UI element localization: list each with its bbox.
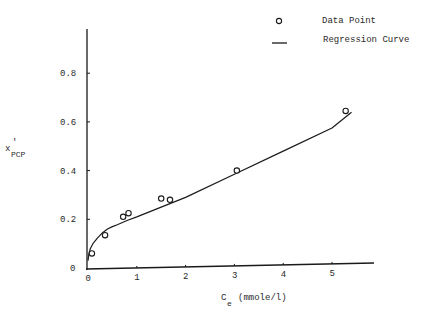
x-axis-label: C e (mmole/l) xyxy=(221,293,287,308)
x-tick-label: 3 xyxy=(232,271,237,281)
y-tick-label: 0.6 xyxy=(60,118,76,128)
regression-line xyxy=(88,112,352,261)
y-tick-label: 0 xyxy=(70,264,75,274)
x-tick-label: 0 xyxy=(86,274,91,284)
data-point xyxy=(167,197,172,202)
data-point xyxy=(343,108,348,113)
legend-data-point-label: Data Point xyxy=(322,16,376,26)
x-tick-label: 4 xyxy=(281,270,286,280)
data-point xyxy=(102,232,107,237)
y-axis-label-sub: PCP xyxy=(11,150,26,159)
y-axis-ticks: 00.20.40.60.8 xyxy=(60,69,90,274)
y-axis-label-prime: ' xyxy=(12,138,17,148)
chart: 012345 00.20.40.60.8 Data Point Regressi… xyxy=(0,0,435,320)
regression-curve xyxy=(88,112,352,261)
legend-regression-curve-label: Regression Curve xyxy=(323,35,409,45)
y-tick-label: 0.4 xyxy=(60,167,76,177)
data-point xyxy=(126,211,131,216)
x-axis-label-unit: (mmole/l) xyxy=(238,293,287,303)
data-point xyxy=(159,196,164,201)
x-tick-label: 5 xyxy=(330,269,335,279)
data-point xyxy=(120,214,125,219)
axes xyxy=(86,29,374,270)
y-axis-label: x ' PCP xyxy=(5,138,26,159)
x-tick-label: 1 xyxy=(134,273,139,283)
data-point xyxy=(234,168,239,173)
legend: Data Point Regression Curve xyxy=(272,16,409,45)
y-axis-label-main: x xyxy=(5,144,10,154)
x-tick-label: 2 xyxy=(183,272,188,282)
x-axis-label-sub: e xyxy=(227,299,232,308)
y-tick-label: 0.2 xyxy=(60,215,76,225)
y-tick-label: 0.8 xyxy=(60,69,76,79)
data-point xyxy=(89,251,94,256)
legend-data-point-icon xyxy=(276,18,281,23)
